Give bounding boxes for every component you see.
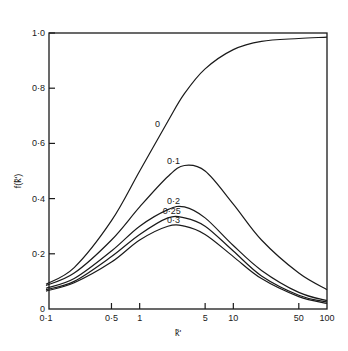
curve-label: 0·1	[167, 156, 180, 166]
curves	[46, 37, 327, 303]
y-tick-label: 0·8	[32, 83, 45, 93]
x-tick-label: 10	[228, 313, 238, 323]
y-tick-label: 0·2	[32, 249, 45, 259]
x-tick-label: 100	[319, 313, 334, 323]
x-tick-label: 0·5	[105, 313, 118, 323]
curve-label: 0·25	[163, 206, 181, 216]
y-tick-label: 0·4	[32, 194, 45, 204]
x-axis-label: k̃'	[175, 328, 182, 338]
curve-label: 0	[155, 119, 160, 129]
x-tick-label: 5	[203, 313, 208, 323]
curve-labels: 00·10·20·250·3	[155, 119, 181, 226]
chart: 00·20·40·60·81·00·10·5151050100 00·10·20…	[0, 0, 348, 351]
x-tick-label: 0·1	[39, 313, 52, 323]
y-axis-label: f(k̃')	[13, 174, 23, 189]
curve-0-3	[46, 225, 327, 304]
y-tick-label: 1·0	[32, 28, 45, 38]
axes: 00·20·40·60·81·00·10·5151050100	[32, 28, 335, 323]
curve-label: 0·3	[167, 215, 180, 225]
curve-label: 0·2	[167, 196, 180, 206]
curve-0	[46, 37, 327, 284]
x-tick-label: 1	[137, 313, 142, 323]
x-tick-label: 50	[294, 313, 304, 323]
curve-0-25	[46, 216, 327, 302]
curve-0-2	[46, 206, 327, 300]
curve-0-1	[46, 165, 327, 290]
y-tick-label: 0·6	[32, 138, 45, 148]
